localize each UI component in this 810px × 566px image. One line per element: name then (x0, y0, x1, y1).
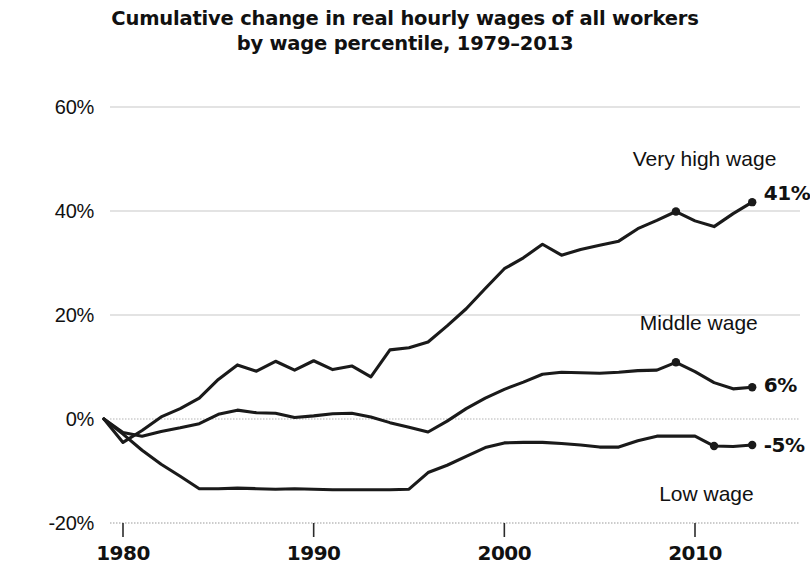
data-point-marker (748, 198, 756, 206)
y-axis-tick-label: 0% (2, 408, 94, 431)
x-axis-tick-label: 1990 (269, 541, 359, 565)
data-point-marker (748, 383, 756, 391)
series-value-label: -5% (764, 433, 805, 457)
y-axis-tick-label: 40% (2, 200, 94, 223)
y-axis-tick-label: -20% (2, 512, 94, 535)
plot-area (0, 0, 810, 566)
x-axis-tick-label: 1980 (78, 541, 168, 565)
data-point-marker (672, 207, 680, 215)
chart-figure: Cumulative change in real hourly wages o… (0, 0, 810, 566)
y-axis-tick-label: 20% (2, 304, 94, 327)
y-axis-tick-label: 60% (2, 96, 94, 119)
data-point-marker (672, 358, 680, 366)
series-value-label: 41% (764, 181, 810, 205)
series-line (104, 362, 752, 436)
series-line (104, 419, 752, 490)
series-name-label: Low wage (659, 482, 754, 506)
data-point-marker (710, 442, 718, 450)
x-tick-marks (123, 523, 695, 537)
series-lines (104, 202, 752, 490)
x-axis-tick-label: 2010 (650, 541, 740, 565)
data-point-marker (748, 441, 756, 449)
series-name-label: Very high wage (633, 147, 777, 171)
series-name-label: Middle wage (640, 311, 758, 335)
series-value-label: 6% (764, 373, 797, 397)
x-axis-tick-label: 2000 (459, 541, 549, 565)
